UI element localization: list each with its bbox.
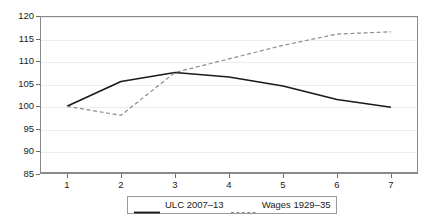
- x-tick-mark-3: [175, 174, 176, 178]
- x-tick-mark-7: [391, 174, 392, 178]
- legend-swatch-solid-icon: [134, 202, 160, 209]
- y-tick-label-110: 110: [19, 56, 34, 66]
- chart-legend: ULC 2007–13Wages 1929–35: [127, 196, 337, 214]
- x-tick-mark-1: [67, 174, 68, 178]
- gridline-90: [41, 152, 417, 153]
- gridline-115: [41, 40, 417, 41]
- legend-label-1: ULC 2007–13: [165, 200, 224, 210]
- y-tick-label-90: 90: [23, 147, 34, 157]
- x-tick-mark-4: [229, 174, 230, 178]
- gridline-120: [41, 17, 417, 18]
- y-tick-mark-85: [36, 174, 40, 175]
- gridline-105: [41, 85, 417, 86]
- y-tick-label-115: 115: [19, 34, 34, 44]
- y-tick-label-105: 105: [18, 79, 34, 89]
- y-tick-label-85: 85: [23, 169, 34, 179]
- legend-label-2: Wages 1929–35: [262, 200, 331, 210]
- x-tick-mark-6: [337, 174, 338, 178]
- y-axis: 859095100105110115120: [0, 0, 40, 224]
- x-tick-label-6: 6: [334, 180, 339, 190]
- x-tick-label-3: 3: [172, 180, 177, 190]
- x-tick-label-5: 5: [280, 180, 285, 190]
- x-tick-label-4: 4: [226, 180, 231, 190]
- y-tick-label-100: 100: [18, 102, 34, 112]
- x-tick-label-7: 7: [388, 180, 393, 190]
- y-tick-label-95: 95: [23, 124, 34, 134]
- chart-figure: 859095100105110115120 ULC 2007–13Wages 1…: [0, 0, 440, 224]
- legend-swatch-dashed-icon: [231, 202, 257, 209]
- gridline-110: [41, 62, 417, 63]
- plot-area: [40, 16, 418, 174]
- gridline-100: [41, 107, 417, 108]
- gridline-95: [41, 130, 417, 131]
- x-tick-label-2: 2: [118, 180, 123, 190]
- x-tick-mark-2: [121, 174, 122, 178]
- x-tick-label-1: 1: [64, 180, 69, 190]
- y-tick-label-120: 120: [18, 11, 34, 21]
- legend-entry-1[interactable]: ULC 2007–13: [134, 200, 224, 210]
- x-axis-line: [41, 172, 417, 173]
- x-tick-mark-5: [283, 174, 284, 178]
- legend-entry-2[interactable]: Wages 1929–35: [231, 200, 331, 210]
